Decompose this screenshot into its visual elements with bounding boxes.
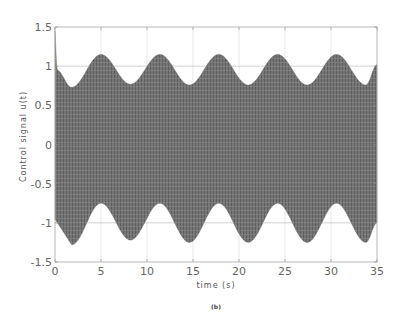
- x-tick-label: 35: [370, 265, 384, 278]
- x-tick-label: 10: [140, 265, 154, 278]
- y-axis-label: Control signal u(t): [19, 91, 28, 182]
- y-tick-label: 0: [45, 139, 52, 152]
- x-tick-label: 20: [232, 265, 246, 278]
- x-tick-label: 25: [278, 265, 292, 278]
- y-tick-label: -1: [41, 217, 52, 230]
- y-tick-label: -1.5: [31, 256, 52, 269]
- x-tick-label: 0: [52, 265, 59, 278]
- x-tick-label: 15: [186, 265, 200, 278]
- y-tick-label: -0.5: [31, 178, 52, 191]
- x-axis-label: time (s): [196, 281, 235, 290]
- y-tick-label: 1: [45, 60, 52, 73]
- x-tick-label: 30: [324, 265, 338, 278]
- figure-caption: (b): [211, 303, 221, 310]
- y-tick-label: 0.5: [35, 99, 53, 112]
- x-tick-label: 5: [98, 265, 105, 278]
- signal-band: [55, 31, 377, 245]
- y-tick-label: 1.5: [35, 21, 53, 34]
- control-signal-chart: 05101520253035 1.510.50-0.5-1-1.5 time (…: [0, 0, 398, 325]
